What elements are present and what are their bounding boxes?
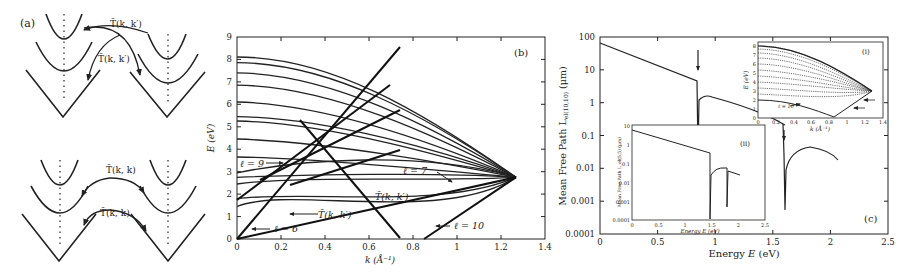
panel-a-top-label-2: T̃(k, k′) [98,53,130,64]
svg-text:100: 100 [579,32,595,42]
panel-c-x-tick-labels: 00.51 1.522.5 [597,237,894,247]
annotation-l6: ℓ = 6 [274,223,298,234]
inset-i: 012 345 678 00.20.4 0.60.81 1.21.4 k (Å⁻… [742,42,887,132]
panel-c-label: (c) [864,213,878,224]
svg-text:2: 2 [227,189,232,199]
figure-canvas: (a) T̃(k, k′) T̃(k, k′) [0,0,910,276]
svg-text:8: 8 [753,43,756,49]
svg-text:0.5: 0.5 [655,222,663,228]
svg-text:0.6: 0.6 [362,242,376,252]
panel-c-ylabel: Mean Free Path Lel(10,10) (μm) [557,66,569,205]
panel-b-label: (b) [514,47,528,58]
svg-text:2: 2 [737,222,740,228]
panel-a-top-label-1: T̃(k, k′) [110,18,142,29]
svg-text:0.0001: 0.0001 [565,229,595,239]
svg-text:7: 7 [227,77,232,87]
panel-c: 00.51 1.522.5 100101 0.10.010.001 0.0001… [557,32,895,259]
svg-text:2: 2 [828,237,833,247]
inset-i-label: (i) [862,48,870,56]
svg-text:0.2: 0.2 [772,119,780,125]
annotation-t2: T̃(k, k′) [375,191,409,202]
svg-text:0.1: 0.1 [581,131,595,141]
panel-c-y-tick-labels: 100101 0.10.010.001 0.0001 [565,32,595,239]
svg-text:0.2: 0.2 [274,242,288,252]
svg-text:0: 0 [756,119,759,125]
panel-b: 00.20.4 0.60.81 1.21.4 012 345 678 9 k (… [206,32,552,265]
svg-text:1.2: 1.2 [861,119,869,125]
svg-text:3: 3 [227,167,232,177]
panel-c-xlabel: Energy E (eV) [708,248,779,259]
annotation-l7: ℓ = 7 [403,165,428,176]
panel-a-bottom-label-2: T̃(k, k) [100,207,130,218]
panel-a: (a) T̃(k, k′) T̃(k, k′) [20,14,205,261]
svg-text:1.4: 1.4 [538,242,552,252]
svg-text:0: 0 [234,242,239,252]
svg-text:3: 3 [753,88,756,94]
panel-b-xlabel: k (Å⁻¹) [365,254,396,265]
annotation-t1: T̃(k, k′) [318,209,352,220]
panel-a-label: (a) [20,17,35,30]
inset-ii-xlabel: Energy E (eV) [679,228,719,235]
svg-text:0.001: 0.001 [571,196,595,206]
svg-text:1: 1 [227,212,232,222]
svg-text:1: 1 [627,142,630,148]
svg-text:1: 1 [845,119,848,125]
svg-text:0: 0 [597,237,602,247]
svg-text:0.4: 0.4 [790,119,798,125]
svg-text:0: 0 [630,222,633,228]
svg-text:10: 10 [584,65,595,75]
svg-text:1: 1 [753,106,756,112]
panel-b-linear-branches [237,47,516,239]
svg-text:6: 6 [753,61,756,67]
svg-text:5: 5 [227,122,232,132]
svg-text:0: 0 [227,234,232,244]
annotation-l10: ℓ = 10 [454,220,484,231]
annotation-l9: ℓ = 9 [240,158,264,169]
svg-text:0.0001: 0.0001 [613,217,631,223]
panel-b-ylabel: E (eV) [206,123,216,153]
svg-text:1.5: 1.5 [766,237,780,247]
inset-i-ylabel: E (eV) [742,70,749,91]
svg-text:1: 1 [712,237,717,247]
inset-ii: 1010.1 0.010.0010.0001 00.51 1.522.5 Ene… [613,123,769,235]
svg-text:10: 10 [624,123,630,129]
svg-text:0.01: 0.01 [576,163,595,173]
inset-i-xlabel: k (Å⁻¹) [810,125,831,132]
svg-text:5: 5 [753,70,756,76]
svg-text:1.2: 1.2 [494,242,508,252]
svg-text:9: 9 [227,32,232,42]
svg-text:1: 1 [590,98,595,108]
svg-text:2.5: 2.5 [761,222,769,228]
svg-text:0.5: 0.5 [651,237,665,247]
inset-ii-ylabel: Mean Free Path L_el(5,5) (μm) [617,137,623,207]
svg-text:1.4: 1.4 [879,119,887,125]
svg-text:0.8: 0.8 [406,242,420,252]
svg-text:4: 4 [753,79,756,85]
svg-text:1: 1 [454,242,459,252]
panel-b-x-tick-labels: 00.20.4 0.60.81 1.21.4 [234,242,551,252]
svg-text:4: 4 [227,144,232,154]
svg-text:0.4: 0.4 [318,242,332,252]
panel-a-bottom-label-1: T̃(k, k) [106,164,136,175]
svg-text:8: 8 [227,54,232,64]
panel-b-y-tick-labels: 012 345 678 9 [227,32,232,244]
svg-text:0.1: 0.1 [622,161,630,167]
inset-ii-label: (ii) [740,140,750,148]
svg-text:6: 6 [227,99,232,109]
svg-text:2: 2 [753,97,756,103]
svg-text:7: 7 [753,52,756,58]
panel-b-bands [237,57,516,207]
svg-text:2.5: 2.5 [881,237,895,247]
inset-i-annotation: ℓ = 10 [778,103,795,109]
